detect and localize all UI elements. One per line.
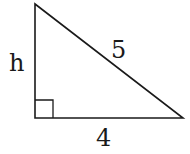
right-angle-marker <box>35 100 53 118</box>
hypotenuse-label: 5 <box>111 36 126 64</box>
right-triangle-diagram: h 5 4 <box>0 0 190 154</box>
triangle <box>35 4 183 118</box>
base-label: 4 <box>96 124 111 152</box>
height-label: h <box>9 49 24 77</box>
